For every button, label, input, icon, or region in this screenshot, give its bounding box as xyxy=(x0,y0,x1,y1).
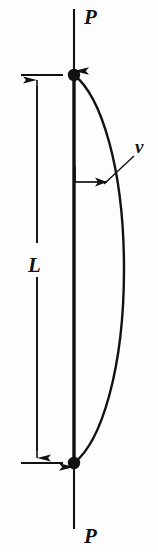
length-label: L xyxy=(27,253,41,277)
column-buckling-figure: P L v P xyxy=(0,0,158,552)
buckled-column-curve xyxy=(74,75,124,463)
figure-canvas: P L v P xyxy=(0,0,158,552)
load-label-top: P xyxy=(83,5,97,29)
pin-support-node-top xyxy=(68,69,80,81)
axial-load-bottom-group: P xyxy=(74,467,97,548)
axial-load-top-group: P xyxy=(74,5,97,71)
load-label-bottom: P xyxy=(83,524,97,548)
length-dimension-group: L xyxy=(27,80,49,458)
deflection-leader-line xyxy=(104,156,134,184)
deflection-label: v xyxy=(135,136,144,157)
